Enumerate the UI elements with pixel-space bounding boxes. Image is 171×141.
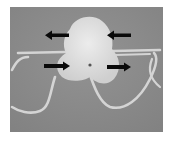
thread-loop-top <box>115 54 150 55</box>
photo-canvas <box>10 7 163 132</box>
specimen-photo <box>10 7 163 132</box>
specimen-center-spot <box>88 63 91 66</box>
